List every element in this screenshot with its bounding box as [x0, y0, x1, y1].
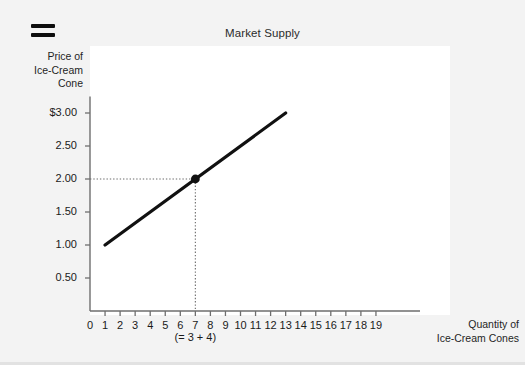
y-tick-label: 1.00 — [21, 238, 77, 250]
y-tick-label: 2.00 — [21, 172, 77, 184]
x-tick-label: 19 — [364, 319, 388, 331]
y-tick-label: 0.50 — [21, 271, 77, 283]
plot-panel — [90, 46, 450, 315]
x-axis-title-line: Quantity of — [380, 318, 519, 332]
y-tick-label: 1.50 — [21, 205, 77, 217]
quantity-sum-note: (= 3 + 4) — [135, 331, 255, 343]
y-axis-title-line: Price of — [0, 50, 83, 64]
x-axis-title: Quantity ofIce-Cream Cones — [380, 318, 519, 345]
chart-page: Market Supply Price ofIce-CreamCone Quan… — [0, 0, 525, 365]
y-axis-title: Price ofIce-CreamCone — [0, 50, 83, 91]
y-axis-title-line: Cone — [0, 77, 83, 91]
y-tick-label: $3.00 — [21, 106, 77, 118]
y-axis-title-line: Ice-Cream — [0, 64, 83, 78]
y-tick-label: 2.50 — [21, 139, 77, 151]
x-axis-title-line: Ice-Cream Cones — [380, 332, 519, 346]
page-title: Market Supply — [0, 27, 525, 39]
